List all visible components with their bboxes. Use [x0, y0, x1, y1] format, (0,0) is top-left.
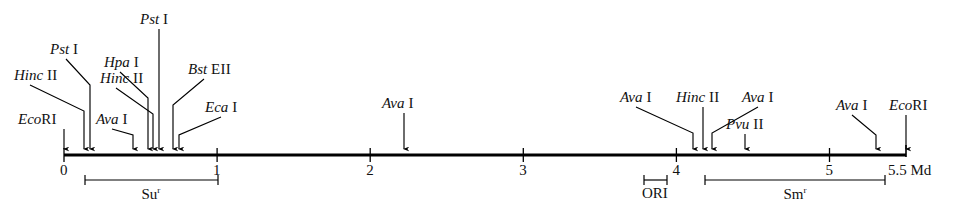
site-enzyme-name: Hinc	[14, 67, 43, 83]
region-label-text: Sm	[784, 186, 804, 202]
site-enzyme-numeral: II	[705, 89, 719, 105]
site-enzyme-numeral: II	[43, 67, 57, 83]
axis-tick-label-4: 4	[672, 163, 680, 178]
site-leader-elbow-14	[852, 115, 876, 149]
region-label-text: Su	[142, 186, 158, 202]
site-enzyme-name: Ava	[96, 111, 119, 127]
site-label-pvu-13: Pvu II	[726, 117, 764, 132]
site-label-eca-8: Eca I	[205, 100, 237, 115]
site-enzyme-numeral: RI	[912, 97, 927, 113]
axis-tick-label-0: 0	[60, 163, 68, 178]
axis-tick-label-5: 5	[826, 163, 834, 178]
site-enzyme-name: Pst	[140, 11, 159, 27]
site-label-eco-0: EcoRI	[18, 112, 57, 127]
region-label-superscript: r	[804, 185, 807, 195]
region-label-text: ORI	[642, 185, 668, 201]
site-enzyme-name: Eca	[205, 99, 228, 115]
site-enzyme-numeral: I	[859, 97, 868, 113]
map-vector-layer	[0, 0, 964, 217]
region-label-ori: ORI	[642, 186, 668, 201]
site-leader-elbow-10	[636, 107, 693, 149]
site-label-hinc-1: Hinc II	[14, 68, 58, 83]
site-enzyme-numeral: I	[643, 89, 652, 105]
site-enzyme-name: Eco	[889, 97, 912, 113]
site-leader-elbow-3	[112, 129, 133, 149]
site-enzyme-name: Ava	[836, 97, 859, 113]
site-leader-elbow-8	[179, 117, 221, 149]
site-enzyme-numeral: EII	[207, 61, 231, 77]
site-marker-7	[173, 79, 204, 149]
site-enzyme-name: Hinc	[676, 89, 705, 105]
region-label-sm: Smr	[784, 186, 807, 202]
site-enzyme-name: Eco	[18, 111, 41, 127]
site-enzyme-numeral: I	[119, 111, 128, 127]
restriction-map-figure: EcoRIHinc IIPst IAva IHpa IHinc IIPst IB…	[0, 0, 964, 217]
site-enzyme-name: Pst	[50, 41, 69, 57]
region-label-su: Sur	[142, 186, 161, 202]
site-enzyme-name: Hpa	[104, 54, 130, 70]
site-marker-3	[112, 129, 133, 149]
axis-tick-label-1: 1	[213, 163, 221, 178]
site-label-bst-7: Bst EII	[188, 62, 231, 77]
site-enzyme-name: Ava	[382, 95, 405, 111]
site-enzyme-numeral: II	[749, 116, 763, 132]
site-enzyme-name: Pvu	[726, 116, 749, 132]
site-label-hpa-4: Hpa I	[104, 55, 139, 70]
site-enzyme-numeral: I	[405, 95, 414, 111]
region-label-superscript: r	[157, 185, 160, 195]
site-label-ava-12: Ava I	[742, 90, 774, 105]
site-enzyme-name: Ava	[620, 89, 643, 105]
site-enzyme-numeral: I	[765, 89, 774, 105]
site-enzyme-numeral: RI	[41, 111, 56, 127]
site-label-hinc-5: Hinc II	[100, 71, 144, 86]
axis-tick-label-2: 2	[366, 163, 374, 178]
site-enzyme-numeral: I	[69, 41, 78, 57]
site-leader-elbow-7	[173, 79, 204, 149]
site-marker-10	[636, 107, 693, 149]
site-label-ava-9: Ava I	[382, 96, 414, 111]
site-label-ava-14: Ava I	[836, 98, 868, 113]
site-enzyme-name: Hinc	[100, 70, 129, 86]
site-enzyme-numeral: I	[159, 11, 168, 27]
site-marker-8	[179, 117, 221, 149]
site-enzyme-name: Ava	[742, 89, 765, 105]
site-enzyme-name: Bst	[188, 61, 207, 77]
site-marker-14	[852, 115, 876, 149]
site-label-hinc-11: Hinc II	[676, 90, 720, 105]
site-label-pst-6: Pst I	[140, 12, 168, 27]
site-enzyme-numeral: I	[130, 54, 139, 70]
axis-end-label: 5.5 Md	[888, 163, 931, 178]
site-enzyme-numeral: I	[228, 99, 237, 115]
axis-tick-label-3: 3	[519, 163, 527, 178]
site-label-ava-3: Ava I	[96, 112, 128, 127]
site-label-ava-10: Ava I	[620, 90, 652, 105]
site-label-pst-2: Pst I	[50, 42, 78, 57]
site-label-eco-15: EcoRI	[889, 98, 928, 113]
site-enzyme-numeral: II	[129, 70, 143, 86]
